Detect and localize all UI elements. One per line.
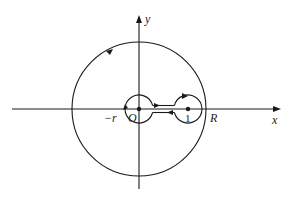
x-axis-arrow-icon	[273, 106, 281, 112]
R-label: R	[209, 111, 218, 125]
y-axis	[136, 15, 142, 189]
origin-point	[137, 107, 141, 111]
neg-r-label: −r	[104, 111, 117, 125]
y-axis-label: y	[144, 12, 151, 26]
x-axis-label: x	[271, 113, 278, 127]
corridor-upper-arrow-icon	[154, 103, 160, 108]
origin-label: O	[128, 111, 137, 125]
corridor-lower-arrow-icon	[167, 110, 173, 115]
point-one	[186, 107, 190, 111]
one-label: 1	[185, 112, 191, 124]
x-axis	[12, 106, 281, 112]
circle-about-one-direction-arrow-icon	[182, 93, 188, 99]
y-axis-arrow-icon	[136, 15, 142, 23]
contour-diagram: y x O −r 1 R	[0, 0, 290, 202]
